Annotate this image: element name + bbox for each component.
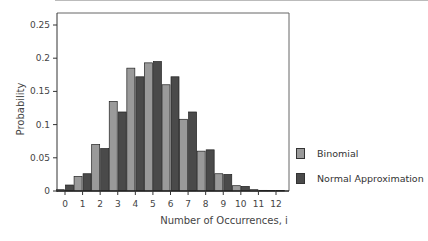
bar-binomial <box>162 85 170 191</box>
y-tick-label: 0.25 <box>30 20 50 30</box>
bar-normal-approximation <box>118 112 126 191</box>
x-tick-label: 10 <box>235 199 247 209</box>
legend: Binomial Normal Approximation <box>296 147 424 197</box>
bar-normal-approximation <box>101 149 109 191</box>
bar-binomial <box>215 174 223 191</box>
x-tick-label: 3 <box>115 199 121 209</box>
bar-binomial <box>144 63 152 191</box>
legend-item-binomial: Binomial <box>296 147 424 160</box>
bar-chart: 00.050.10.150.20.25 0123456789101112 Pro… <box>0 0 428 241</box>
legend-swatch-normal-approximation <box>296 173 305 184</box>
x-tick-label: 7 <box>185 199 191 209</box>
x-tick-label: 9 <box>220 199 226 209</box>
bar-normal-approximation <box>83 174 91 191</box>
legend-label: Normal Approximation <box>317 173 424 184</box>
y-tick-label: 0.15 <box>30 86 50 96</box>
bar-normal-approximation <box>206 150 214 191</box>
x-tick-label: 4 <box>132 199 138 209</box>
legend-item-normal-approximation: Normal Approximation <box>296 172 424 185</box>
x-tick-label: 1 <box>80 199 86 209</box>
legend-swatch-binomial <box>296 148 305 159</box>
bar-binomial <box>197 151 205 191</box>
x-tick-label: 12 <box>270 199 281 209</box>
bar-normal-approximation <box>153 62 161 191</box>
bar-binomial <box>232 186 240 191</box>
bar-normal-approximation <box>66 185 74 191</box>
y-tick-label: 0 <box>44 186 50 196</box>
legend-label: Binomial <box>317 148 358 159</box>
y-axis-title: Probability <box>15 82 26 135</box>
bar-normal-approximation <box>224 174 232 191</box>
y-tick-label: 0.1 <box>36 120 50 130</box>
x-axis: 0123456789101112 <box>57 191 289 209</box>
y-axis: 00.050.10.150.20.25 <box>30 20 57 196</box>
bar-normal-approximation <box>189 112 197 191</box>
bar-normal-approximation <box>136 77 144 191</box>
x-axis-title: Number of Occurrences, i <box>160 215 288 226</box>
x-tick-label: 2 <box>97 199 103 209</box>
x-tick-label: 6 <box>168 199 174 209</box>
x-tick-label: 5 <box>150 199 156 209</box>
y-tick-label: 0.2 <box>36 53 50 63</box>
x-tick-label: 0 <box>62 199 68 209</box>
bar-binomial <box>127 68 135 191</box>
bar-normal-approximation <box>171 77 179 191</box>
bar-binomial <box>74 176 82 191</box>
bar-binomial <box>180 119 188 191</box>
y-tick-label: 0.05 <box>30 153 50 163</box>
bar-series-group <box>57 62 285 191</box>
x-tick-label: 11 <box>253 199 264 209</box>
x-tick-label: 8 <box>203 199 209 209</box>
bar-binomial <box>109 101 117 191</box>
bar-binomial <box>92 145 100 191</box>
